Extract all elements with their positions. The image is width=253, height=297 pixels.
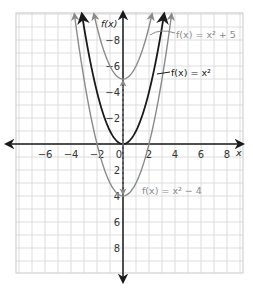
y-tick-label: −4 xyxy=(105,87,120,98)
parabola-chart: −6−4−2024688642−2−4−6−8 f(x) x f(x) = x²… xyxy=(0,0,253,297)
x-axis-label: x xyxy=(235,147,242,158)
x-tick-label: 6 xyxy=(198,149,204,160)
y-tick-label: −8 xyxy=(105,35,120,46)
x-tick-label: −2 xyxy=(90,149,105,160)
y-axis-label: f(x) xyxy=(101,18,117,29)
x-tick-label: −4 xyxy=(64,149,79,160)
y-tick-label: 6 xyxy=(114,217,120,228)
curve-label-middle: f(x) = x² xyxy=(171,67,211,78)
x-tick-label: 4 xyxy=(172,149,178,160)
y-tick-label: −2 xyxy=(105,113,120,124)
grid xyxy=(16,13,243,273)
x-tick-label: −6 xyxy=(38,149,53,160)
y-tick-label: 8 xyxy=(114,243,120,254)
y-tick-label: 2 xyxy=(114,165,120,176)
curve-label-lower: f(x) = x² − 4 xyxy=(142,185,202,196)
x-tick-label: 8 xyxy=(224,149,230,160)
x-tick-label: 0 xyxy=(116,149,122,160)
curve-label-upper: f(x) = x² + 5 xyxy=(176,29,236,40)
